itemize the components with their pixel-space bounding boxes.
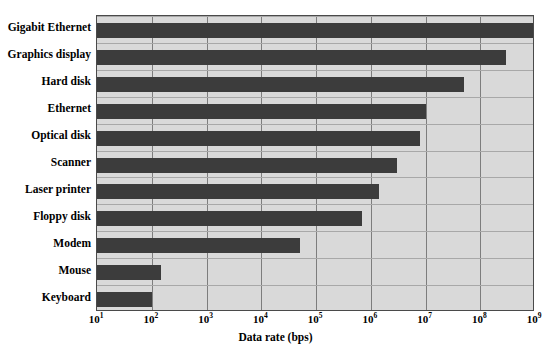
x-tick-exponent: 2 xyxy=(154,311,158,320)
x-tick-label: 103 xyxy=(198,313,213,325)
x-tick-mantissa: 10 xyxy=(253,313,264,325)
bar xyxy=(97,77,464,92)
x-tick-label: 105 xyxy=(308,313,323,325)
x-tick-label: 104 xyxy=(253,313,268,325)
row-band xyxy=(97,258,533,285)
category-label: Ethernet xyxy=(0,102,91,115)
bar xyxy=(97,265,161,280)
x-tick-label: 106 xyxy=(362,313,377,325)
bar-chart: Gigabit EthernetGraphics displayHard dis… xyxy=(0,0,551,352)
bar xyxy=(97,23,534,38)
x-tick-exponent: 7 xyxy=(428,311,432,320)
bar xyxy=(97,211,362,226)
bar xyxy=(97,292,152,307)
category-label: Floppy disk xyxy=(0,210,91,223)
category-label: Graphics display xyxy=(0,48,91,61)
category-label: Mouse xyxy=(0,264,91,277)
bar xyxy=(97,158,397,173)
category-label: Modem xyxy=(0,237,91,250)
category-label: Laser printer xyxy=(0,183,91,196)
x-tick-exponent: 9 xyxy=(538,311,542,320)
bar xyxy=(97,238,300,253)
x-tick-exponent: 6 xyxy=(373,311,377,320)
x-tick-exponent: 4 xyxy=(264,311,268,320)
x-tick-label: 108 xyxy=(472,313,487,325)
x-tick-label: 107 xyxy=(417,313,432,325)
x-tick-label: 101 xyxy=(89,313,104,325)
category-label: Keyboard xyxy=(0,291,91,304)
x-tick-mantissa: 10 xyxy=(362,313,373,325)
category-label: Gigabit Ethernet xyxy=(0,21,91,34)
x-tick-label: 102 xyxy=(143,313,158,325)
bar xyxy=(97,104,426,119)
category-label: Scanner xyxy=(0,156,91,169)
bar xyxy=(97,50,506,65)
x-tick-exponent: 8 xyxy=(483,311,487,320)
x-tick-mantissa: 10 xyxy=(89,313,100,325)
x-tick-mantissa: 10 xyxy=(472,313,483,325)
x-tick-exponent: 1 xyxy=(100,311,104,320)
category-label: Optical disk xyxy=(0,129,91,142)
x-tick-exponent: 3 xyxy=(209,311,213,320)
row-band xyxy=(97,285,533,311)
x-axis-title: Data rate (bps) xyxy=(0,331,551,343)
x-tick-label: 109 xyxy=(527,313,542,325)
x-tick-mantissa: 10 xyxy=(417,313,428,325)
x-tick-mantissa: 10 xyxy=(527,313,538,325)
x-tick-mantissa: 10 xyxy=(308,313,319,325)
x-tick-mantissa: 10 xyxy=(143,313,154,325)
plot-area xyxy=(96,15,534,311)
x-tick-exponent: 5 xyxy=(319,311,323,320)
category-label: Hard disk xyxy=(0,75,91,88)
bar xyxy=(97,184,379,199)
x-tick-mantissa: 10 xyxy=(198,313,209,325)
bar xyxy=(97,131,420,146)
